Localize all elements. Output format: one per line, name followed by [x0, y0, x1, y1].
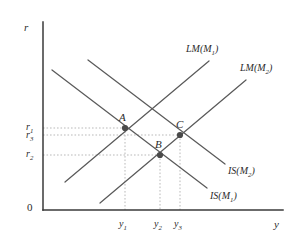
- curve-label-lm1: LM(M1): [186, 44, 218, 57]
- lm-curves: [65, 61, 246, 203]
- point-label-C: C: [176, 119, 183, 130]
- figure-canvas: [0, 0, 299, 247]
- curve-label-is1: IS(M1): [210, 191, 237, 204]
- curve-label-lm2: LM(M2): [240, 63, 272, 76]
- x-tick-y2: y2: [154, 219, 162, 232]
- curve-label-is2: IS(M2): [228, 166, 255, 179]
- axes: [43, 22, 283, 210]
- is-lm-figure: r y 0 r1 r3 r2 y1 y2 y3 LM(M1) LM(M2) IS…: [0, 0, 299, 247]
- point-B-marker[interactable]: [157, 152, 163, 158]
- x-tick-y1: y1: [119, 219, 127, 232]
- is-curves: [52, 60, 225, 188]
- y-tick-r2: r2: [26, 149, 33, 162]
- point-label-B: B: [155, 139, 162, 150]
- point-C-marker[interactable]: [177, 132, 183, 138]
- point-A-marker[interactable]: [122, 125, 128, 131]
- x-axis-label: y: [274, 219, 279, 230]
- curve-lm1: [65, 61, 209, 182]
- y-axis-label: r: [24, 22, 28, 33]
- curve-lm2: [100, 80, 246, 203]
- origin-label: 0: [27, 202, 33, 213]
- x-tick-y3: y3: [174, 219, 182, 232]
- point-label-A: A: [119, 112, 126, 123]
- curve-is1: [52, 70, 207, 188]
- y-tick-r3: r3: [26, 130, 33, 143]
